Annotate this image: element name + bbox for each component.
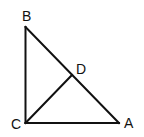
label-a: A (124, 115, 134, 131)
label-c: C (11, 116, 21, 132)
triangle-diagram: B C A D (0, 0, 144, 137)
label-b: B (22, 8, 31, 24)
segment-cd (26, 75, 73, 123)
label-d: D (76, 61, 86, 77)
